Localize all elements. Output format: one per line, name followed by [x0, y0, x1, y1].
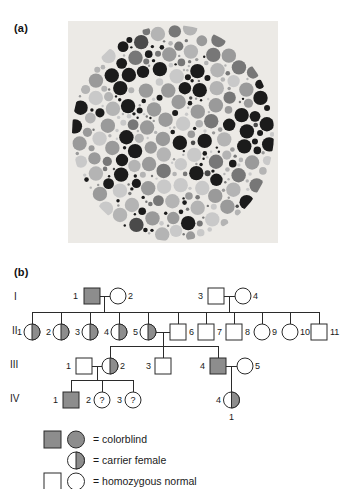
individual-id: 4: [216, 395, 221, 405]
carrier-half-fill: [61, 324, 69, 340]
symbol-male-normal: [198, 324, 214, 340]
pedigree-connectors: [32, 296, 319, 392]
individual-id: 1: [66, 361, 71, 371]
individual-I-4[interactable]: 4: [235, 288, 258, 304]
symbol-male-affected: [210, 358, 226, 374]
carrier-half-fill: [232, 392, 240, 408]
individual-id: 2: [86, 395, 91, 405]
generation-label-IV: IV: [10, 393, 20, 404]
legend-open-square-icon: [44, 473, 61, 489]
individual-id: 4: [104, 327, 109, 337]
individual-I-3[interactable]: 3: [198, 288, 224, 304]
individual-id: 4: [200, 361, 205, 371]
individual-II-11[interactable]: 11: [311, 324, 339, 340]
legend-open-circle-icon: [68, 473, 85, 489]
symbol-male-affected: [84, 288, 100, 304]
panel-a-label: (a): [14, 22, 28, 34]
pedigree-svg: I II III IV: [0, 280, 345, 430]
legend-entry-colorblind: = colorblind: [44, 431, 147, 448]
legend-entry-homozygous-normal: = homozygous normal: [44, 473, 197, 489]
symbol-female-normal: [254, 324, 270, 340]
individual-II-6[interactable]: 6: [170, 324, 194, 340]
ishihara-plate-svg: [68, 21, 278, 243]
symbol-female-normal: [282, 324, 298, 340]
generation-label-I: I: [14, 291, 17, 302]
symbol-male-normal: [226, 324, 242, 340]
individual-id: 3: [117, 395, 122, 405]
legend-half-filled-circle-icon: [76, 452, 84, 469]
individual-id: 3: [146, 361, 151, 371]
symbol-female-normal: [110, 288, 126, 304]
individual-id: 10: [300, 327, 310, 337]
legend-label-colorblind: = colorblind: [93, 433, 147, 445]
individual-II-4[interactable]: 4: [104, 324, 127, 340]
symbol-male-normal: [155, 358, 171, 374]
legend-label-homozygous-normal: = homozygous normal: [93, 475, 197, 487]
individual-id: 6: [189, 327, 194, 337]
individual-III-5[interactable]: 5: [237, 358, 260, 374]
individual-id: 5: [133, 327, 138, 337]
individual-id: 7: [217, 327, 222, 337]
individual-III-4[interactable]: 4: [200, 358, 226, 374]
ishihara-plate-image: [68, 21, 278, 243]
pedigree-chart: I II III IV: [0, 280, 345, 430]
individual-id: 3: [75, 327, 80, 337]
individual-II-9[interactable]: 9: [254, 324, 277, 340]
individual-IV-2[interactable]: ? 2: [86, 392, 110, 408]
individual-II-3[interactable]: 3: [75, 324, 98, 340]
individual-III-2[interactable]: 2: [102, 358, 125, 374]
generation-label-III: III: [10, 359, 18, 370]
individual-II-1[interactable]: 1: [17, 324, 40, 340]
unknown-status-marker: ?: [99, 395, 104, 405]
carrier-half-fill: [32, 324, 40, 340]
panel-b-label: (b): [14, 266, 29, 278]
symbol-male-normal: [76, 358, 92, 374]
individual-II-2[interactable]: 2: [46, 324, 69, 340]
pedigree-legend: = colorblind = carrier female = homozygo…: [0, 428, 345, 489]
individual-IV-3[interactable]: ? 3: [117, 392, 141, 408]
individual-III-3[interactable]: 3: [146, 358, 171, 374]
symbol-male-normal: [170, 324, 186, 340]
unknown-status-marker: ?: [130, 395, 135, 405]
individual-sub-label: 1: [229, 412, 234, 422]
legend-filled-square-icon: [44, 431, 61, 448]
symbol-male-affected: [63, 392, 79, 408]
symbol-female-normal: [237, 358, 253, 374]
individual-id: 1: [17, 327, 22, 337]
individual-id: 2: [128, 291, 133, 301]
individual-IV-4[interactable]: 4 1: [216, 392, 240, 422]
individual-II-10[interactable]: 10: [282, 324, 310, 340]
individual-I-2[interactable]: 2: [110, 288, 133, 304]
individual-id: 2: [120, 361, 125, 371]
individual-II-8[interactable]: 8: [226, 324, 250, 340]
individual-id: 4: [253, 291, 258, 301]
individual-id: 2: [46, 327, 51, 337]
carrier-half-fill: [148, 324, 156, 340]
individual-id: 9: [272, 327, 277, 337]
individual-II-5[interactable]: 5: [133, 324, 156, 340]
legend-label-carrier-female: = carrier female: [93, 454, 166, 466]
carrier-half-fill: [90, 324, 98, 340]
individual-id: 5: [255, 361, 260, 371]
individual-id: 1: [73, 291, 78, 301]
figure-page: (a) (b) I II III IV: [0, 0, 345, 489]
individual-id: 1: [53, 395, 58, 405]
carrier-half-fill: [119, 324, 127, 340]
individual-III-1[interactable]: 1: [66, 358, 92, 374]
legend-filled-circle-icon: [68, 431, 85, 448]
individual-IV-1[interactable]: 1: [53, 392, 79, 408]
individual-id: 11: [330, 327, 339, 337]
individual-II-7[interactable]: 7: [198, 324, 222, 340]
individual-id: 3: [198, 291, 203, 301]
symbol-male-normal: [208, 288, 224, 304]
legend-entry-carrier-female: = carrier female: [68, 452, 167, 469]
carrier-half-fill: [110, 358, 118, 374]
symbol-male-normal: [311, 324, 327, 340]
symbol-female-normal: [235, 288, 251, 304]
legend-svg: = colorblind = carrier female = homozygo…: [0, 428, 345, 489]
individual-id: 8: [245, 327, 250, 337]
individual-I-1[interactable]: 1: [73, 288, 100, 304]
